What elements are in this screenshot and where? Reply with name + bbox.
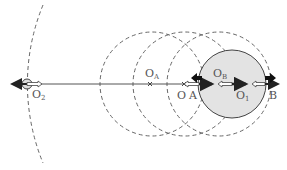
label-b: B xyxy=(269,89,277,102)
label-o2: O2 xyxy=(32,88,46,102)
label-o: O xyxy=(177,89,186,102)
label-oa: OA xyxy=(145,67,160,81)
diagram-canvas: O2 OA O A OB O1 B xyxy=(0,0,287,170)
b-arrow-bold-right xyxy=(265,73,276,83)
label-a: A xyxy=(188,89,198,102)
